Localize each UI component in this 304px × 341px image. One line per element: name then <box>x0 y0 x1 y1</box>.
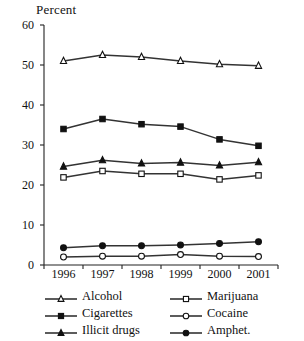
y-tick-label: 40 <box>12 99 34 111</box>
data-point-marker <box>217 177 222 182</box>
series-line <box>64 242 259 248</box>
data-point-marker <box>256 254 262 260</box>
series-cocaine <box>61 252 262 260</box>
legend-item-marijuana: Marijuana <box>169 290 294 303</box>
data-point-marker <box>139 121 144 126</box>
legend-marker-sample <box>169 308 203 320</box>
series-cigarettes <box>61 116 261 148</box>
legend-marker-icon <box>44 310 78 322</box>
data-point-marker <box>256 143 261 148</box>
x-tick-label: 1997 <box>81 268 125 280</box>
data-point-marker <box>100 243 106 249</box>
legend-item-cocaine: Cocaine <box>169 307 294 320</box>
y-tick-label: 50 <box>12 59 34 71</box>
data-point-marker <box>183 296 188 301</box>
legend-item-label: Cigarettes <box>82 307 133 320</box>
y-tick-label: 30 <box>12 139 34 151</box>
x-tick-label: 2001 <box>237 268 281 280</box>
data-point-marker <box>58 295 64 301</box>
y-tick-label: 10 <box>12 219 34 231</box>
legend-marker-icon <box>44 293 78 305</box>
data-point-marker <box>61 245 67 251</box>
y-tick-label: 60 <box>12 19 34 31</box>
series-illicit-drugs <box>60 156 261 169</box>
series-line <box>64 255 259 257</box>
data-point-marker <box>61 175 66 180</box>
data-point-marker <box>61 254 67 260</box>
legend-marker-sample <box>169 325 203 337</box>
data-point-marker <box>178 242 184 248</box>
data-point-marker <box>58 313 63 318</box>
legend-marker-icon <box>44 327 78 339</box>
legend-marker-icon <box>169 310 203 322</box>
legend-item-label: Illicit drugs <box>82 324 140 337</box>
data-point-marker <box>100 253 106 259</box>
legend-row: CigarettesCocaine <box>44 305 294 322</box>
data-point-marker <box>256 173 261 178</box>
legend-item-label: Amphet. <box>207 324 250 337</box>
series-line <box>64 160 259 166</box>
data-point-marker <box>178 171 183 176</box>
data-point-marker <box>183 313 189 319</box>
series-line <box>64 171 259 179</box>
legend-item-alcohol: Alcohol <box>44 290 169 303</box>
legend-row: Illicit drugsAmphet. <box>44 322 294 339</box>
legend-item-illicit-drugs: Illicit drugs <box>44 324 169 337</box>
legend-marker-icon <box>169 293 203 305</box>
data-point-marker <box>100 168 105 173</box>
legend-item-label: Marijuana <box>207 290 258 303</box>
data-point-marker <box>100 116 105 121</box>
chart-legend: AlcoholMarijuanaCigarettesCocaineIllicit… <box>44 288 294 339</box>
x-tick-label: 1996 <box>42 268 86 280</box>
legend-marker-sample <box>169 291 203 303</box>
data-point-marker <box>58 329 64 335</box>
series-alcohol <box>60 51 261 68</box>
data-point-marker <box>178 252 184 258</box>
data-point-marker <box>183 330 189 336</box>
data-point-marker <box>217 240 223 246</box>
data-point-marker <box>217 137 222 142</box>
data-point-marker <box>217 253 223 259</box>
legend-marker-sample <box>44 291 78 303</box>
y-tick-label: 0 <box>12 259 34 271</box>
x-tick-label: 1999 <box>159 268 203 280</box>
series-line <box>64 119 259 146</box>
data-point-marker <box>139 171 144 176</box>
legend-marker-sample <box>44 308 78 320</box>
legend-item-label: Alcohol <box>82 290 122 303</box>
y-tick-label: 20 <box>12 179 34 191</box>
legend-marker-sample <box>44 325 78 337</box>
legend-item-label: Cocaine <box>207 307 248 320</box>
data-point-marker <box>139 253 145 259</box>
data-point-marker <box>99 156 105 162</box>
data-point-marker <box>139 243 145 249</box>
series-line <box>64 55 259 66</box>
data-point-marker <box>255 158 261 164</box>
data-point-marker <box>61 126 66 131</box>
series-amphet <box>61 239 262 251</box>
legend-marker-icon <box>169 327 203 339</box>
data-point-marker <box>178 124 183 129</box>
x-tick-label: 2000 <box>198 268 242 280</box>
legend-item-amphet: Amphet. <box>169 324 294 337</box>
data-point-marker <box>256 239 262 245</box>
x-tick-label: 1998 <box>120 268 164 280</box>
legend-item-cigarettes: Cigarettes <box>44 307 169 320</box>
series-marijuana <box>61 168 261 182</box>
legend-row: AlcoholMarijuana <box>44 288 294 305</box>
